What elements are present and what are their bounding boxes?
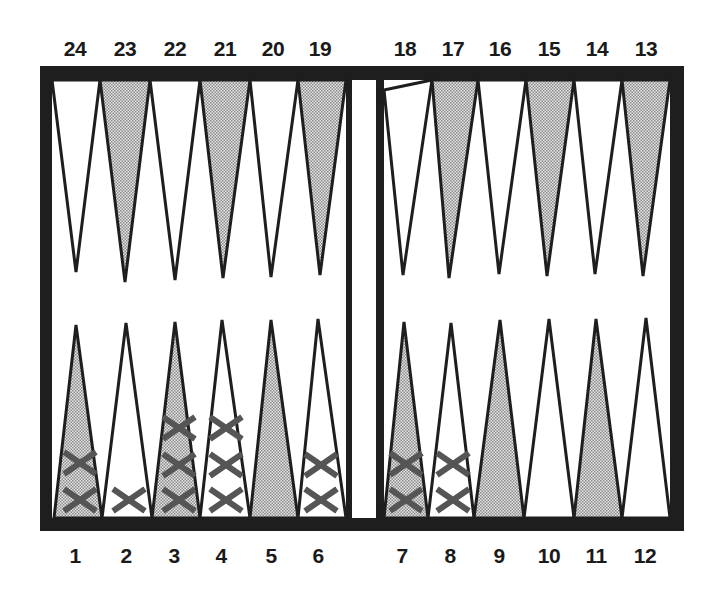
backgammon-board (0, 0, 711, 601)
point-label-2: 2 (104, 544, 148, 568)
point-label-9: 9 (477, 544, 521, 568)
point-label-4: 4 (199, 544, 243, 568)
point-label-3: 3 (152, 544, 196, 568)
right-half-board (384, 80, 670, 518)
point-label-5: 5 (249, 544, 293, 568)
point-label-10: 10 (527, 544, 571, 568)
point-label-12: 12 (623, 544, 667, 568)
point-label-8: 8 (428, 544, 472, 568)
point-label-1: 1 (53, 544, 97, 568)
point-label-6: 6 (296, 544, 340, 568)
point-label-11: 11 (574, 544, 618, 568)
bar (352, 80, 376, 518)
point-label-7: 7 (380, 544, 424, 568)
